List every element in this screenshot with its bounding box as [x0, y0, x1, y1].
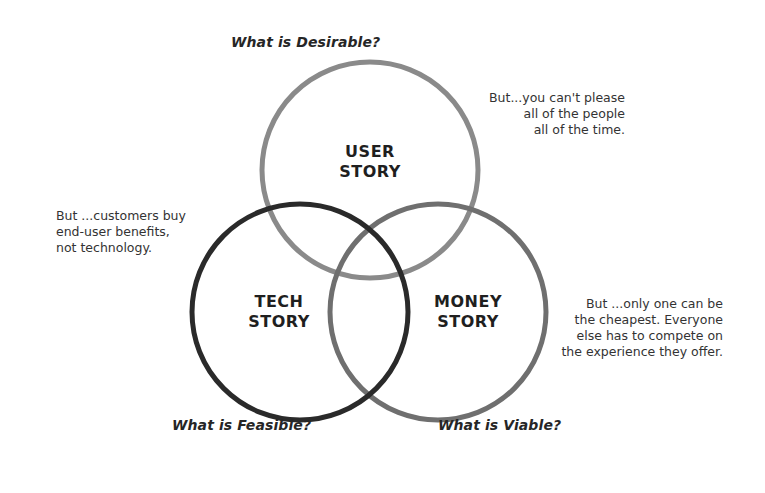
money-story-caveat: But ...only one can be the cheapest. Eve… [548, 296, 723, 360]
user-story-caveat: But...you can't please all of the people… [468, 90, 625, 138]
venn-diagram: What is Desirable? What is Feasible? Wha… [0, 0, 765, 493]
tech-story-caveat: But ...customers buy end-user benefits, … [56, 208, 216, 256]
tech-story-label: TECH STORY [229, 292, 329, 332]
money-story-label: MONEY STORY [418, 292, 518, 332]
viable-question: What is Viable? [438, 417, 561, 433]
user-story-label: USER STORY [320, 142, 420, 182]
feasible-question: What is Feasible? [172, 417, 311, 433]
desirable-question: What is Desirable? [231, 34, 380, 50]
